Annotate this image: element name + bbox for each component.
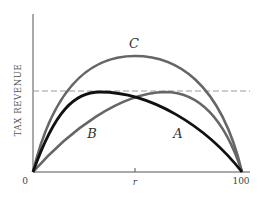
curve-b <box>33 92 242 172</box>
x-tick-label-0: 0 <box>22 176 28 186</box>
x-tick-label-100: 100 <box>232 176 249 186</box>
curve-a <box>33 92 242 172</box>
y-axis-label: TAX REVENUE <box>13 64 23 136</box>
chart-canvas: C A B 0 r 100 TAX REVENUE <box>0 0 262 200</box>
laffer-curve-chart: C A B 0 r 100 TAX REVENUE <box>0 0 262 200</box>
x-tick-label-r: r <box>133 177 138 187</box>
curve-a-label: A <box>172 126 182 141</box>
curve-b-label: B <box>86 126 97 141</box>
curve-c-label: C <box>129 36 139 51</box>
